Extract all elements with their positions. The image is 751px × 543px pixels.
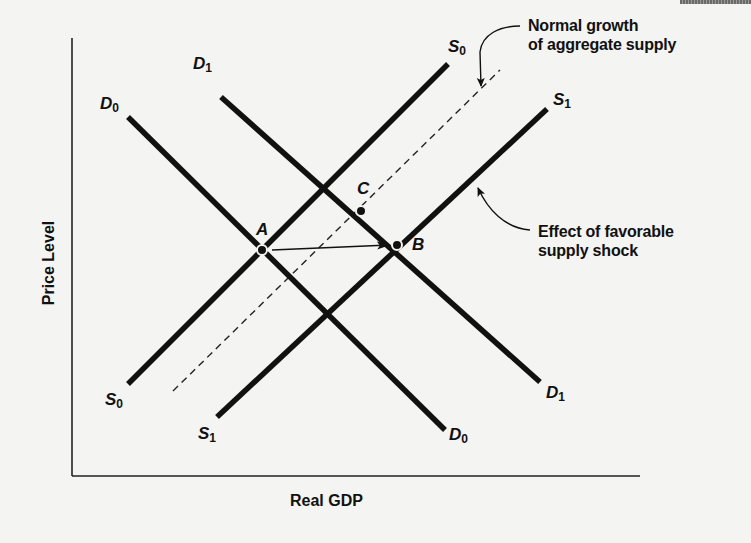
supply-shock-pointer-icon	[478, 188, 530, 230]
annotation-normal-growth: Normal growth of aggregate supply	[528, 16, 676, 54]
annotation-favorable-shock: Effect of favorable supply shock	[538, 222, 674, 260]
normal-growth-pointer-icon	[480, 26, 520, 86]
label-d1: D1	[193, 55, 212, 74]
annotation-normal-growth-line2: of aggregate supply	[528, 35, 676, 54]
point-b-marker	[392, 240, 402, 250]
ad-as-diagram	[0, 0, 751, 543]
label-s0-bottom: S0	[105, 391, 123, 410]
annotation-favorable-shock-line1: Effect of favorable	[538, 222, 674, 241]
label-d0-top: D0	[100, 95, 119, 114]
demand-curve-d0	[128, 117, 445, 430]
normal-growth-supply-curve	[173, 70, 500, 391]
annotation-favorable-shock-line2: supply shock	[538, 241, 674, 260]
shift-arrow-a-to-b	[272, 245, 389, 250]
y-axis-label: Price Level	[40, 221, 58, 306]
label-point-c: C	[357, 180, 369, 197]
label-d1-bottom: D1	[546, 384, 565, 403]
label-s1-top: S1	[553, 91, 571, 110]
label-s0-top: S0	[448, 38, 466, 57]
label-d0-bottom: D0	[449, 426, 468, 445]
label-point-a: A	[256, 221, 268, 238]
point-a-marker	[257, 245, 267, 255]
point-c-marker	[356, 206, 366, 216]
label-point-b: B	[412, 236, 424, 253]
annotation-normal-growth-line1: Normal growth	[528, 16, 676, 35]
label-s1-bottom: S1	[198, 425, 216, 444]
supply-curve-s0	[128, 64, 448, 384]
x-axis-label: Real GDP	[290, 492, 363, 510]
